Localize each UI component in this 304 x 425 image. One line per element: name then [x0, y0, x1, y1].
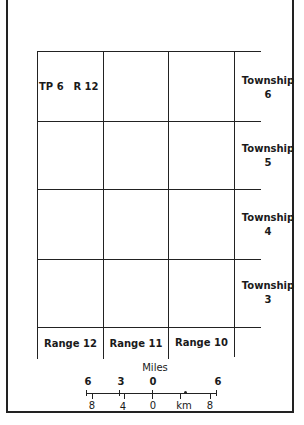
grid-line-top — [37, 51, 261, 52]
scale-tick — [86, 390, 87, 396]
township-label-6: Township 6 — [236, 74, 300, 102]
scale-tick — [92, 393, 93, 399]
km-tick-0: 0 — [147, 400, 159, 411]
cell-range-label: R 12 — [70, 80, 102, 94]
cell-township-label: TP 6 — [39, 80, 69, 94]
township-label-3: Township 3 — [236, 279, 300, 307]
km-tick-4: 4 — [117, 401, 129, 412]
miles-tick-6-right: 6 — [212, 376, 224, 387]
scale-tick — [216, 390, 217, 396]
scale-dot — [184, 391, 187, 394]
grid-line-col-1 — [103, 51, 104, 359]
range-label-11: Range 11 — [104, 337, 168, 351]
miles-tick-3: 3 — [115, 376, 127, 387]
miles-tick-0: 0 — [147, 376, 159, 387]
map-frame — [6, 0, 294, 413]
range-label-10: Range 10 — [169, 336, 234, 350]
grid-line-col-0 — [37, 51, 38, 359]
miles-tick-6-left: 6 — [82, 376, 94, 387]
grid-line-row-3 — [37, 259, 261, 260]
scale-tick — [180, 393, 181, 399]
scale-miles-label: Miles — [130, 362, 180, 373]
km-tick-8-right: 8 — [204, 400, 216, 411]
scale-tick — [119, 390, 120, 396]
scale-tick — [152, 390, 153, 399]
scale-tick — [210, 393, 211, 399]
km-unit-label: km — [174, 400, 194, 411]
grid-line-row-4 — [37, 327, 261, 328]
grid-line-col-2 — [168, 51, 169, 359]
range-label-12: Range 12 — [38, 337, 103, 351]
grid-line-row-2 — [37, 189, 261, 190]
grid-line-row-1 — [37, 121, 261, 122]
township-label-4: Township 4 — [236, 211, 300, 239]
scale-tick — [124, 393, 125, 399]
km-tick-8-left: 8 — [86, 400, 98, 411]
township-label-5: Township 5 — [236, 142, 300, 170]
